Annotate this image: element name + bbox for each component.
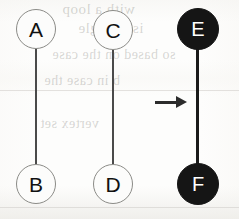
node-d-label: D (105, 174, 120, 195)
graph-layer: A B C D E F (0, 0, 239, 219)
node-c-label: C (105, 20, 120, 41)
node-e-label: E (191, 19, 204, 39)
node-a[interactable]: A (16, 9, 56, 49)
figure-canvas: with a loop is a single so based on the … (0, 0, 239, 219)
node-a-label: A (29, 19, 43, 40)
node-c[interactable]: C (93, 10, 133, 50)
node-e[interactable]: E (177, 8, 219, 50)
node-d[interactable]: D (93, 164, 133, 204)
node-b[interactable]: B (16, 164, 56, 204)
arrow-head-icon (176, 96, 187, 108)
edge-a-b[interactable] (35, 49, 37, 164)
node-b-label: B (29, 174, 43, 195)
edge-c-d[interactable] (112, 50, 114, 164)
node-f[interactable]: F (177, 163, 219, 205)
node-f-label: F (192, 174, 204, 194)
edge-e-f[interactable] (196, 48, 199, 165)
arrow-shaft (155, 101, 177, 104)
